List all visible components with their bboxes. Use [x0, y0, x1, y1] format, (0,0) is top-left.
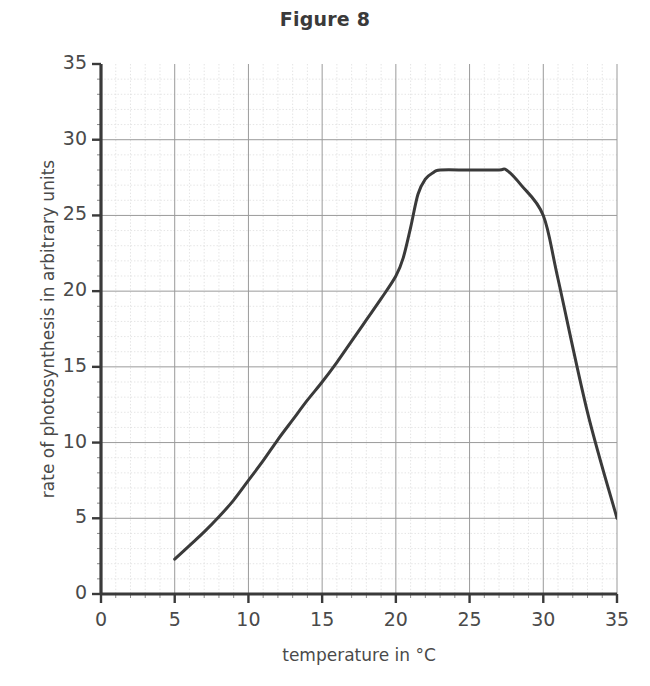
y-tick-label-0: 0 — [47, 581, 87, 603]
x-tick-label-35: 35 — [601, 608, 633, 630]
chart-svg — [0, 0, 650, 686]
x-tick-label-25: 25 — [454, 608, 486, 630]
y-tick-label-15: 15 — [47, 354, 87, 376]
x-tick-label-15: 15 — [306, 608, 338, 630]
figure-container: Figure 8 rate of photosynthesis in arbit… — [0, 0, 650, 686]
x-tick-label-10: 10 — [232, 608, 264, 630]
y-tick-label-10: 10 — [47, 430, 87, 452]
y-tick-label-30: 30 — [47, 127, 87, 149]
plot-area: rate of photosynthesis in arbitrary unit… — [0, 0, 650, 686]
x-tick-label-0: 0 — [85, 608, 117, 630]
x-tick-label-30: 30 — [527, 608, 559, 630]
y-tick-label-5: 5 — [47, 505, 87, 527]
x-tick-label-5: 5 — [159, 608, 191, 630]
y-tick-label-20: 20 — [47, 278, 87, 300]
y-tick-label-35: 35 — [47, 51, 87, 73]
x-tick-label-20: 20 — [380, 608, 412, 630]
y-tick-label-25: 25 — [47, 202, 87, 224]
x-axis-label: temperature in °C — [101, 645, 617, 665]
